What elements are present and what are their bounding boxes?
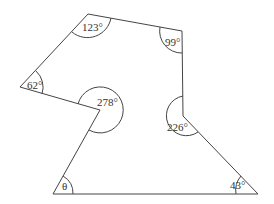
angle-label-278: 278° — [97, 97, 118, 108]
polygon-figure — [0, 0, 274, 204]
angle-label-123: 123° — [82, 22, 103, 33]
polygon-diagram: 123° 99° 226° 43° θ 278° 62° — [0, 0, 274, 204]
angle-label-62: 62° — [27, 80, 42, 91]
angle-label-226: 226° — [167, 122, 188, 133]
polygon-outline — [20, 14, 258, 194]
angle-label-43: 43° — [230, 180, 245, 191]
angle-label-theta: θ — [62, 181, 67, 192]
angle-label-99: 99° — [165, 37, 180, 48]
